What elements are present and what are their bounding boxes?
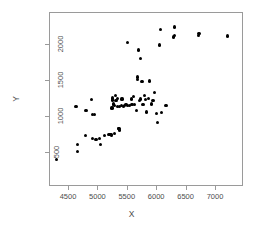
data-point: [118, 128, 121, 131]
x-tick-mark: [127, 186, 128, 190]
data-point: [99, 143, 102, 146]
data-point: [116, 97, 119, 100]
data-point: [158, 43, 161, 46]
data-point: [159, 28, 162, 31]
data-point: [141, 103, 144, 106]
data-point: [132, 95, 135, 98]
data-points-layer: [50, 13, 242, 185]
x-tick-mark: [156, 186, 157, 190]
data-point: [139, 57, 142, 60]
x-axis-label: X: [0, 209, 263, 219]
x-tick-mark: [186, 186, 187, 190]
data-point: [145, 110, 148, 113]
data-point: [160, 111, 163, 114]
x-tick-label: 6500: [177, 192, 194, 201]
data-point: [133, 103, 136, 106]
data-point: [150, 102, 153, 105]
data-point: [164, 104, 167, 107]
data-point: [76, 143, 79, 146]
data-point: [226, 34, 229, 37]
data-point: [120, 97, 123, 100]
data-point: [98, 137, 101, 140]
data-point: [155, 112, 158, 115]
data-point: [139, 97, 142, 100]
data-point: [140, 80, 143, 83]
data-point: [135, 109, 138, 112]
data-point: [126, 41, 129, 44]
y-tick-label: 500: [52, 152, 61, 165]
y-tick-mark: [45, 152, 49, 153]
data-point: [173, 34, 176, 37]
data-point: [137, 48, 140, 51]
data-point: [84, 109, 87, 112]
data-point: [143, 94, 146, 97]
x-tick-label: 7000: [207, 192, 224, 201]
data-point: [76, 150, 79, 153]
data-point: [173, 25, 176, 28]
y-tick-label: 1500: [56, 80, 65, 97]
x-tick-label: 4500: [60, 192, 77, 201]
data-point: [74, 105, 77, 108]
data-point: [90, 98, 93, 101]
data-point: [84, 134, 87, 137]
scatter-plot-figure: 450050005500600065007000 500100015002000…: [0, 0, 263, 233]
y-tick-label: 2000: [56, 44, 65, 61]
data-point: [153, 91, 156, 94]
y-tick-mark: [45, 44, 49, 45]
data-point: [130, 97, 133, 100]
x-tick-label: 6000: [148, 192, 165, 201]
data-point: [151, 99, 154, 102]
data-point: [147, 97, 150, 100]
data-point: [156, 121, 159, 124]
x-tick-mark: [97, 186, 98, 190]
plot-area: [49, 12, 243, 186]
data-point: [113, 132, 116, 135]
y-tick-mark: [45, 116, 49, 117]
data-point: [148, 79, 151, 82]
data-point: [136, 75, 139, 78]
x-tick-mark: [68, 186, 69, 190]
x-tick-mark: [215, 186, 216, 190]
y-tick-label: 1000: [56, 116, 65, 133]
data-point: [93, 113, 96, 116]
x-tick-label: 5000: [89, 192, 106, 201]
y-axis-label: Y: [10, 12, 22, 186]
data-point: [197, 32, 200, 35]
data-point: [103, 134, 106, 137]
x-tick-label: 5500: [118, 192, 135, 201]
y-tick-mark: [45, 80, 49, 81]
